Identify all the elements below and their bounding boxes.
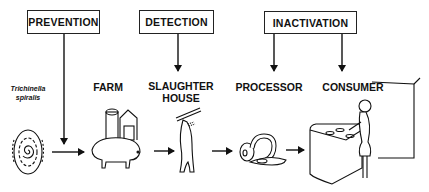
trichinella-label: Trichinella spiralis: [6, 84, 50, 102]
processor-label: PROCESSOR: [232, 81, 306, 93]
inactivation-label: INACTIVATION: [273, 17, 349, 29]
trichinella-control-diagram: PREVENTION DETECTION INACTIVATION Trichi…: [0, 0, 429, 192]
detection-box: DETECTION: [139, 10, 214, 34]
pig-with-barn-icon: [92, 109, 140, 168]
slaughterhouse-label-line2: HOUSE: [148, 92, 214, 104]
inactivation-box: INACTIVATION: [264, 11, 357, 34]
consumer-label: CONSUMER: [318, 81, 388, 93]
detection-label: DETECTION: [145, 16, 207, 28]
slaughterhouse-label-line1: SLAUGHTER: [148, 80, 214, 92]
trichinella-label-line1: Trichinella: [6, 84, 50, 93]
slaughterhouse-label: SLAUGHTER HOUSE: [148, 80, 214, 104]
trichinella-label-line2: spiralis: [6, 93, 50, 102]
farm-label: FARM: [88, 81, 128, 93]
woman-at-stove-icon: [310, 78, 420, 184]
parasite-cyst-icon: [13, 130, 44, 174]
prevention-label: PREVENTION: [28, 16, 98, 28]
sausage-ham-icon: [240, 136, 286, 165]
prevention-box: PREVENTION: [27, 10, 100, 34]
hanging-carcass-icon: [176, 108, 201, 172]
